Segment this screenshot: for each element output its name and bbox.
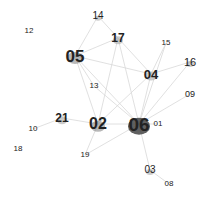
node-label: 15 [162,39,171,47]
node-label: 02 [89,116,107,132]
node-label: 08 [165,180,174,188]
edge-02-17 [98,38,118,124]
node-label: 10 [29,125,38,133]
node-label: 13 [90,82,99,90]
node-label: 05 [66,48,85,65]
node-label: 03 [144,165,155,175]
node-label: 17 [111,32,124,44]
node-label: 09 [185,90,195,99]
node-label: 12 [25,27,34,35]
node-label: 16 [184,57,196,68]
edge-06-15 [139,43,166,124]
node-label: 01 [154,120,163,128]
node-label: 21 [55,112,68,124]
node-label: 06 [128,115,149,134]
node-label: 14 [92,11,103,21]
node-label: 18 [14,145,23,153]
edge-02-05 [75,56,98,124]
edge-06-17 [118,38,139,124]
node-label: 04 [144,68,158,81]
node-label: 19 [81,151,90,159]
